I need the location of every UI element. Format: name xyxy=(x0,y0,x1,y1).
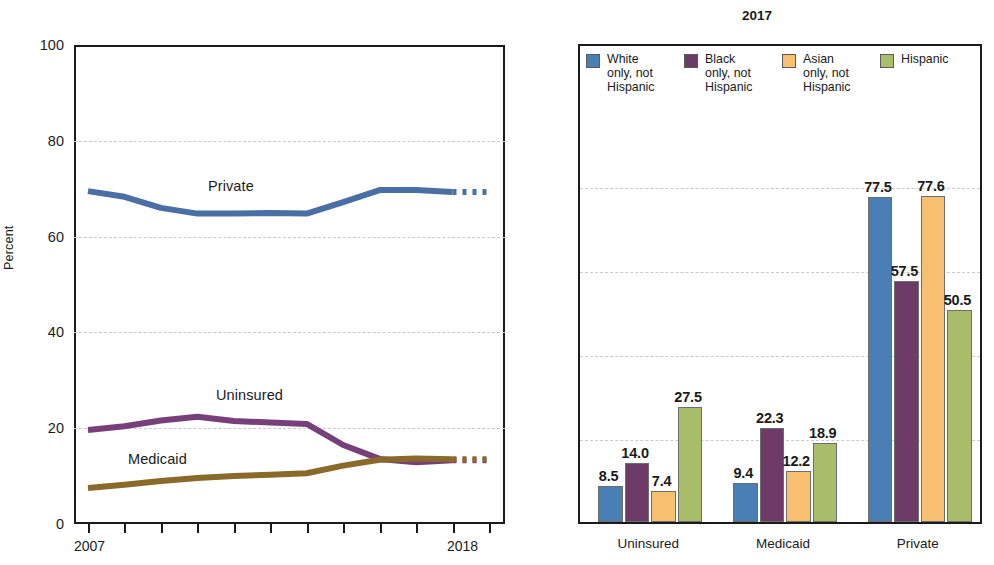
two-panel-health-insurance-figure: Percent 020406080100 2007 2018 Private U… xyxy=(0,0,994,565)
bar-private-1 xyxy=(894,281,919,523)
line-chart-x-tick-2009 xyxy=(161,524,163,533)
bar-medicaid-2 xyxy=(786,471,811,522)
line-series-private xyxy=(88,190,453,214)
line-chart-y-axis-label: Percent xyxy=(2,226,16,270)
bar-value-label-private-3: 50.5 xyxy=(935,292,979,308)
bar-chart-panel: 2017 White only, not HispanicBlack only,… xyxy=(520,0,994,565)
line-series-label-uninsured: Uninsured xyxy=(216,387,283,403)
legend-swatch-icon-3 xyxy=(880,54,894,68)
line-series-label-private: Private xyxy=(208,178,254,194)
legend-label-2: Asian only, not Hispanic xyxy=(803,52,851,95)
line-chart-y-tick-100: 100 xyxy=(30,38,64,53)
bar-value-label-medicaid-2: 12.2 xyxy=(774,453,818,469)
bar-group-label-uninsured: Uninsured xyxy=(588,536,708,551)
line-chart-x-tick-2015 xyxy=(380,524,382,533)
legend-label-3: Hispanic xyxy=(901,52,949,66)
bar-medicaid-0 xyxy=(733,483,758,522)
bar-chart-legend: White only, not HispanicBlack only, not … xyxy=(586,52,978,104)
legend-label-1: Black only, not Hispanic xyxy=(705,52,753,95)
line-chart-x-tick-2016 xyxy=(416,524,418,533)
line-chart-x-tick-2017 xyxy=(453,524,455,533)
bar-value-label-uninsured-0: 8.5 xyxy=(587,468,631,484)
bar-group-label-medicaid: Medicaid xyxy=(723,536,843,551)
bar-private-3 xyxy=(947,310,972,522)
line-chart-x-end-label: 2018 xyxy=(447,538,478,554)
line-chart-x-tick-2011 xyxy=(234,524,236,533)
bar-uninsured-2 xyxy=(651,491,676,522)
line-chart-panel: Percent 020406080100 2007 2018 Private U… xyxy=(0,0,520,565)
line-chart-x-start-label: 2007 xyxy=(74,538,105,554)
line-chart-y-tick-0: 0 xyxy=(30,517,64,532)
bar-value-label-uninsured-3: 27.5 xyxy=(666,389,710,405)
bar-private-0 xyxy=(868,197,893,523)
legend-label-0: White only, not Hispanic xyxy=(607,52,655,95)
bar-value-label-medicaid-1: 22.3 xyxy=(748,410,792,426)
legend-item-1[interactable]: Black only, not Hispanic xyxy=(684,52,782,104)
bar-private-2 xyxy=(921,196,946,522)
line-chart-y-tick-20: 20 xyxy=(30,421,64,436)
legend-item-3[interactable]: Hispanic xyxy=(880,52,978,104)
line-series-label-medicaid: Medicaid xyxy=(128,451,187,467)
bar-value-label-private-1: 57.5 xyxy=(882,263,926,279)
line-chart-x-tick-2008 xyxy=(124,524,126,533)
legend-item-2[interactable]: Asian only, not Hispanic xyxy=(782,52,880,104)
bar-value-label-medicaid-0: 9.4 xyxy=(721,465,765,481)
bar-value-label-medicaid-3: 18.9 xyxy=(801,425,845,441)
line-chart-y-tick-80: 80 xyxy=(30,134,64,149)
bar-value-label-uninsured-2: 7.4 xyxy=(640,473,684,489)
legend-swatch-icon-2 xyxy=(782,54,796,68)
legend-swatch-icon-0 xyxy=(586,54,600,68)
line-chart-x-tick-2014 xyxy=(343,524,345,533)
bar-value-label-private-0: 77.5 xyxy=(856,179,900,195)
bar-group-label-private: Private xyxy=(858,536,978,551)
bar-value-label-private-2: 77.6 xyxy=(909,178,953,194)
line-chart-x-tick-2013 xyxy=(307,524,309,533)
line-chart-x-tick-2007 xyxy=(88,524,90,533)
line-chart-x-tick-2018 xyxy=(489,524,491,533)
bar-uninsured-0 xyxy=(598,486,623,522)
legend-item-0[interactable]: White only, not Hispanic xyxy=(586,52,684,104)
bar-chart-title: 2017 xyxy=(520,8,994,23)
legend-swatch-icon-1 xyxy=(684,54,698,68)
line-chart-x-tick-2010 xyxy=(197,524,199,533)
line-chart-y-tick-40: 40 xyxy=(30,325,64,340)
bar-value-label-uninsured-1: 14.0 xyxy=(613,445,657,461)
bar-uninsured-3 xyxy=(678,407,703,523)
line-chart-y-tick-60: 60 xyxy=(30,230,64,245)
line-chart-x-tick-2012 xyxy=(270,524,272,533)
